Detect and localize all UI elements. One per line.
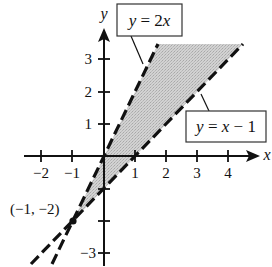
x-tick-label: 4 [224, 165, 232, 181]
intersection-point-label: (−1, −2) [10, 201, 59, 218]
x-axis [24, 150, 260, 162]
equation-label: y = x − 1 [194, 117, 256, 136]
y-tick-label: 1 [85, 116, 93, 132]
y-axis-label: y [98, 5, 108, 23]
leader-line [131, 36, 143, 64]
label-box-y-equals-x-minus-1: y = x − 1 [186, 94, 266, 142]
x-tick-labels: −2 −1 1 2 3 4 [33, 165, 232, 181]
y-tick-label: 2 [85, 84, 93, 100]
equation-label: y = 2x [127, 11, 171, 30]
line-y-equals-x-minus-1 [31, 44, 243, 264]
inequality-graph: −2 −1 1 2 3 4 3 2 1 −3 y x (−1, −2) y = … [0, 0, 272, 267]
y-tick-label: −3 [80, 245, 96, 261]
x-tick-label: −2 [33, 165, 49, 181]
leader-line [201, 94, 209, 111]
y-tick-label: 3 [85, 51, 93, 67]
x-tick-label: 1 [131, 165, 139, 181]
x-tick-label: 3 [193, 165, 201, 181]
x-axis-label: x [262, 146, 270, 163]
x-tick-label: −1 [64, 165, 80, 181]
x-tick-label: 2 [162, 165, 170, 181]
intersection-point [69, 217, 76, 224]
